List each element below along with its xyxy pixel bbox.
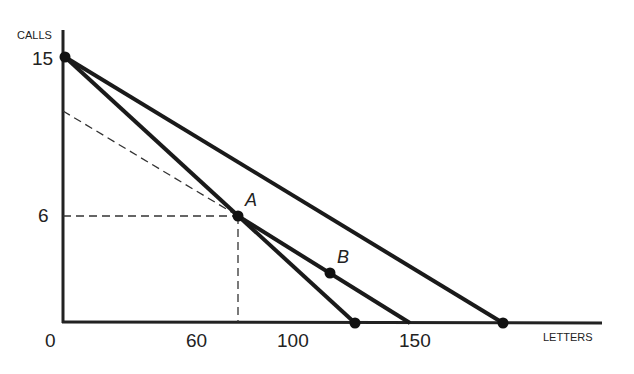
label-A: A [245,190,257,211]
point-A [233,211,244,222]
y-axis-label: CALLS [17,29,52,41]
x-tick-60: 60 [186,330,207,352]
budget-line-2 [65,57,503,323]
x-axis-label: LETTERS [543,331,593,343]
x-axis [62,322,602,323]
chart: CALLS LETTERS 15 6 0 60 100 150 A B [0,0,634,374]
y-tick-15: 15 [32,48,53,70]
x-tick-150: 150 [399,330,431,352]
budget-line-1 [65,57,355,323]
point-x100 [350,318,361,329]
point-B [325,268,336,279]
point-y15 [60,52,71,63]
kinked-line [238,216,410,323]
chart-plot [0,0,634,374]
x-tick-0: 0 [45,330,56,352]
y-tick-6: 6 [38,205,49,227]
point-x150 [498,318,509,329]
label-B: B [337,247,349,268]
x-tick-100: 100 [277,330,309,352]
dashed-extension [63,111,238,216]
